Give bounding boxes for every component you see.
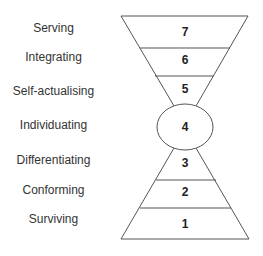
level-7: 7 bbox=[182, 25, 189, 39]
upper-right-edge bbox=[196, 16, 248, 106]
lower-left-edge bbox=[121, 148, 174, 239]
level-6: 6 bbox=[182, 53, 189, 67]
lower-right-edge bbox=[196, 148, 249, 239]
hourglass-shape: 7 6 5 4 3 2 1 bbox=[0, 0, 263, 256]
upper-left-edge bbox=[121, 16, 174, 106]
level-2: 2 bbox=[182, 185, 189, 199]
level-5: 5 bbox=[182, 82, 189, 96]
level-4: 4 bbox=[182, 120, 189, 134]
level-1: 1 bbox=[182, 217, 189, 231]
level-3: 3 bbox=[182, 156, 189, 170]
